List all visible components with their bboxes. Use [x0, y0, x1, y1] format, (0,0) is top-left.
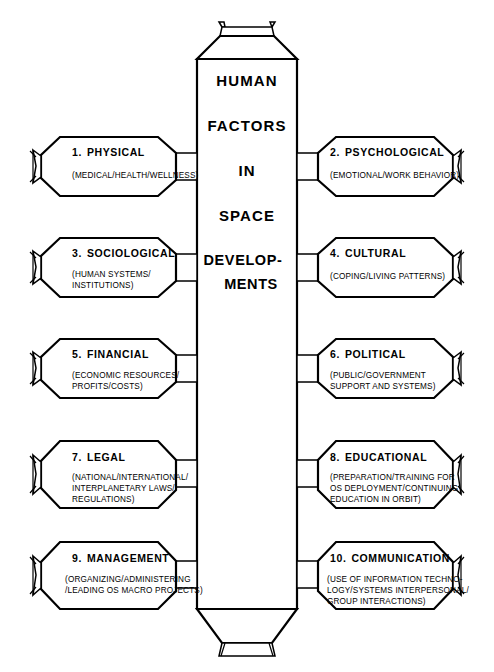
- module-5-title: 5.FINANCIAL: [72, 348, 149, 360]
- module-5-label: FINANCIAL: [87, 348, 149, 360]
- module-6-label: POLITICAL: [345, 348, 406, 360]
- module-5-detail: (ECONOMIC RESOURCES/ PROFITS/COSTS): [72, 370, 179, 392]
- core-line-factors: FACTORS: [197, 117, 297, 134]
- module-10-detail: (USE OF INFORMATION TECHNO- LOGY/SYSTEMS…: [327, 574, 469, 608]
- module-7-title: 7.LEGAL: [72, 451, 126, 463]
- module-8-number: 8.: [330, 451, 340, 463]
- module-2-number: 2.: [330, 146, 340, 158]
- module-7-number: 7.: [72, 451, 82, 463]
- module-9-title: 9.MANAGEMENT: [72, 552, 169, 564]
- module-1-title: 1.PHYSICAL: [72, 146, 145, 158]
- module-3-detail: (HUMAN SYSTEMS/ INSTITUTIONS): [72, 269, 151, 291]
- module-4-number: 4.: [330, 247, 340, 259]
- module-1-number: 1.: [72, 146, 82, 158]
- core-line-space: SPACE: [197, 207, 297, 224]
- connector-right-row-1: [297, 153, 318, 180]
- core-bottom-nozzle: [219, 643, 275, 656]
- module-3-title: 3.SOCIOLOGICAL: [72, 247, 175, 259]
- module-3-number: 3.: [72, 247, 82, 259]
- core-line-in: IN: [197, 162, 297, 179]
- module-4-detail: (COPING/LIVING PATTERNS): [330, 271, 445, 282]
- module-8-title: 8.EDUCATIONAL: [330, 451, 427, 463]
- module-7-label: LEGAL: [87, 451, 126, 463]
- module-5-number: 5.: [72, 348, 82, 360]
- module-2-detail: (EMOTIONAL/WORK BEHAVIOR): [330, 170, 459, 181]
- module-1-detail: (MEDICAL/HEALTH/WELLNESS): [72, 170, 198, 181]
- module-6-title: 6.POLITICAL: [330, 348, 406, 360]
- space-development-diagram: HUMAN FACTORS IN SPACE DEVELOP- MENTS 1.…: [0, 0, 494, 672]
- module-3-label: SOCIOLOGICAL: [87, 247, 175, 259]
- core-bottom-taper: [197, 609, 297, 643]
- module-9-detail: (ORGANIZING/ADMINISTERING /LEADING OS MA…: [65, 574, 203, 596]
- module-7-detail: (NATIONAL/INTERNATIONAL/ INTERPLANETARY …: [72, 472, 188, 506]
- module-8-detail: (PREPARATION/TRAINING FOR OS DEPLOYMENT/…: [330, 472, 458, 506]
- core-top-cap: [220, 27, 274, 36]
- core-line-human: HUMAN: [197, 72, 297, 89]
- module-4-title: 4.CULTURAL: [330, 247, 406, 259]
- core-line-ments: MENTS: [201, 276, 301, 292]
- connector-right-row-3: [297, 355, 318, 382]
- module-2-title: 2.PSYCHOLOGICAL: [330, 146, 444, 158]
- core-body: [197, 59, 297, 609]
- core-nose-cone: [197, 36, 297, 59]
- core-line-develop: DEVELOP-: [193, 252, 293, 268]
- module-6-detail: (PUBLIC/GOVERNMENT SUPPORT AND SYSTEMS): [330, 370, 436, 392]
- module-9-label: MANAGEMENT: [87, 552, 169, 564]
- connector-right-row-4: [297, 460, 318, 487]
- module-8-label: EDUCATIONAL: [345, 451, 427, 463]
- connector-right-row-5: [297, 561, 318, 588]
- module-2-label: PSYCHOLOGICAL: [345, 146, 444, 158]
- module-1-label: PHYSICAL: [87, 146, 145, 158]
- module-4-label: CULTURAL: [345, 247, 406, 259]
- module-10-number: 10.: [330, 552, 346, 564]
- diagram-vector-layer: [0, 0, 494, 672]
- module-9-number: 9.: [72, 552, 82, 564]
- module-10-label: COMMUNICATION: [351, 552, 450, 564]
- module-10-title: 10.COMMUNICATION: [330, 552, 450, 564]
- module-6-number: 6.: [330, 348, 340, 360]
